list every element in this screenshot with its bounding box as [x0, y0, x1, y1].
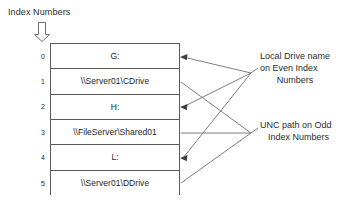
arrowhead-row2: [180, 104, 188, 110]
row-index: 3: [37, 129, 49, 136]
row-value: G:: [110, 51, 119, 61]
connector-row1-odd: [181, 82, 251, 133]
connector-row2-even: [183, 73, 251, 107]
row-index: 2: [37, 103, 49, 110]
index-numbers-label: Index Numbers: [8, 7, 70, 18]
down-arrow-icon: [35, 23, 50, 42]
connector-row5-odd: [181, 133, 251, 183]
connector-row4-even: [183, 73, 251, 158]
connector-odd-group: [181, 82, 251, 183]
annotation-even-line3: Numbers: [260, 74, 330, 86]
row-index: 4: [37, 154, 49, 161]
annotation-even-line1: Local Drive name: [260, 50, 330, 62]
row-value: \\FileServer\Shared01: [73, 127, 157, 137]
row-value: \\Server01\CDrive: [81, 76, 149, 86]
drive-mapping-table: 0 G: 1 \\Server01\CDrive 2 H: 3 \\FileSe…: [50, 43, 180, 195]
connector-row0-even: [183, 57, 251, 73]
leader-even: [251, 68, 258, 73]
row-value: H:: [111, 102, 120, 112]
table-row[interactable]: 2 H:: [51, 95, 179, 120]
annotation-even-index: Local Drive name on Even Index Numbers: [260, 50, 330, 86]
row-value: \\Server01\DDrive: [81, 178, 149, 188]
arrowhead-row4: [180, 155, 188, 161]
annotation-odd-line1: UNC path on Odd: [260, 119, 332, 131]
leader-odd: [251, 128, 258, 133]
row-index: 0: [37, 53, 49, 60]
arrowhead-row0: [180, 54, 188, 60]
annotation-odd-line2: Index Numbers: [260, 131, 332, 143]
annotation-odd-index: UNC path on Odd Index Numbers: [260, 119, 332, 143]
table-row[interactable]: 4 L:: [51, 145, 179, 170]
table-row[interactable]: 1 \\Server01\CDrive: [51, 69, 179, 94]
annotation-even-line2: on Even Index: [260, 62, 330, 74]
diagram-canvas: Index Numbers 0: [0, 0, 355, 210]
row-index: 5: [37, 180, 49, 187]
row-index: 1: [37, 78, 49, 85]
table-row[interactable]: 0 G:: [51, 44, 179, 69]
row-value: L:: [111, 152, 118, 162]
arrowheads-even: [180, 54, 188, 161]
annotation-leaders: [251, 68, 258, 133]
table-row[interactable]: 5 \\Server01\DDrive: [51, 171, 179, 196]
table-row[interactable]: 3 \\FileServer\Shared01: [51, 120, 179, 145]
connector-even-group: [183, 57, 251, 158]
